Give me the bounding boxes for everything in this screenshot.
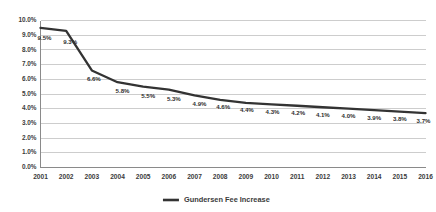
data-point-label: 5.5% bbox=[141, 92, 155, 99]
y-axis-tick-labels: 0.0%1.0%2.0%3.0%4.0%5.0%6.0%7.0%8.0%9.0%… bbox=[18, 16, 36, 170]
y-axis-tick-label: 10.0% bbox=[18, 16, 36, 23]
y-axis-tick-label: 3.0% bbox=[22, 119, 37, 126]
y-axis-tick-label: 5.0% bbox=[22, 90, 37, 97]
legend-label: Gundersen Fee Increase bbox=[184, 195, 270, 204]
series-line-gundersen-fee-increase bbox=[41, 28, 426, 113]
data-point-label: 3.7% bbox=[417, 117, 431, 124]
x-axis-tick-label: 2010 bbox=[264, 173, 279, 180]
y-axis-tick-label: 9.0% bbox=[22, 31, 37, 38]
y-axis-tick-label: 4.0% bbox=[22, 104, 37, 111]
x-axis-tick-label: 2008 bbox=[213, 173, 228, 180]
data-point-label: 4.6% bbox=[216, 103, 230, 110]
y-axis-tick-label: 7.0% bbox=[22, 60, 37, 67]
gridlines-group bbox=[41, 21, 426, 168]
data-point-label: 5.3% bbox=[167, 95, 181, 102]
data-point-label: 9.5% bbox=[38, 34, 52, 41]
y-axis-tick-label: 2.0% bbox=[22, 134, 37, 141]
x-axis-tick-label: 2003 bbox=[84, 173, 99, 180]
x-axis-tick-label: 2004 bbox=[110, 173, 125, 180]
x-axis-tick-label: 2009 bbox=[238, 173, 253, 180]
data-point-label: 5.8% bbox=[116, 87, 130, 94]
chart-legend: Gundersen Fee Increase bbox=[163, 195, 270, 204]
x-axis-tick-label: 2007 bbox=[187, 173, 202, 180]
x-axis-tick-label: 2012 bbox=[315, 173, 330, 180]
y-axis-tick-label: 1.0% bbox=[22, 148, 37, 155]
data-point-label: 6.6% bbox=[87, 75, 101, 82]
x-axis-tick-label: 2014 bbox=[367, 173, 382, 180]
x-axis-tick-label: 2015 bbox=[392, 173, 407, 180]
data-point-label: 3.8% bbox=[393, 115, 407, 122]
data-point-label: 3.9% bbox=[367, 114, 381, 121]
x-axis-tick-label: 2005 bbox=[136, 173, 151, 180]
x-axis-tick-label: 2006 bbox=[161, 173, 176, 180]
data-point-label: 4.4% bbox=[240, 106, 254, 113]
y-axis-tick-label: 6.0% bbox=[22, 75, 37, 82]
x-axis-tick-label: 2013 bbox=[341, 173, 356, 180]
chart-container: 0.0%1.0%2.0%3.0%4.0%5.0%6.0%7.0%8.0%9.0%… bbox=[0, 0, 436, 212]
y-axis-tick-label: 8.0% bbox=[22, 46, 37, 53]
x-axis-tick-label: 2002 bbox=[59, 173, 74, 180]
data-point-label: 4.3% bbox=[266, 108, 280, 115]
line-chart: 0.0%1.0%2.0%3.0%4.0%5.0%6.0%7.0%8.0%9.0%… bbox=[0, 0, 436, 212]
data-point-label: 4.9% bbox=[193, 100, 207, 107]
x-axis-tick-labels: 2001200220032004200520062007200820092010… bbox=[33, 173, 433, 180]
x-axis-tick-label: 2016 bbox=[418, 173, 433, 180]
x-axis-tick-label: 2011 bbox=[290, 173, 305, 180]
data-point-label: 4.0% bbox=[342, 112, 356, 119]
y-axis-tick-label: 0.0% bbox=[22, 163, 37, 170]
data-point-label: 4.2% bbox=[291, 109, 305, 116]
data-point-label: 9.3% bbox=[63, 38, 77, 45]
x-axis-tick-label: 2001 bbox=[33, 173, 48, 180]
data-point-label: 4.1% bbox=[316, 111, 330, 118]
